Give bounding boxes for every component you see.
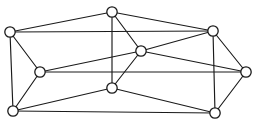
graph-vertex-bottom-left — [8, 106, 18, 116]
graph-vertex-bottom-right — [210, 108, 220, 118]
edge-farright-bottomright — [215, 72, 246, 113]
edge-bottomcenter-bottomright — [112, 88, 215, 113]
graph-vertex-top-right — [208, 26, 218, 36]
edge-topright-center — [141, 31, 213, 51]
graph-vertex-left-middle — [35, 67, 45, 77]
edge-leftmiddle-center — [40, 51, 141, 72]
graph-vertex-bottom-center — [107, 83, 117, 93]
graph-canvas — [0, 0, 255, 130]
edge-topleft-topcenter — [10, 12, 112, 32]
graph-diagram — [0, 0, 255, 130]
edge-topleft-bottomleft — [10, 32, 13, 111]
graph-vertex-top-center — [107, 7, 117, 17]
graph-vertex-far-right — [241, 67, 251, 77]
graph-vertex-center — [136, 46, 146, 56]
edge-topleft-leftmiddle — [10, 32, 40, 72]
edge-bottomleft-bottomright — [13, 111, 215, 113]
edge-bottomleft-bottomcenter — [13, 88, 112, 111]
edge-center-farright — [141, 51, 246, 72]
graph-vertex-top-left — [5, 27, 15, 37]
edge-topcenter-topright — [112, 12, 213, 31]
